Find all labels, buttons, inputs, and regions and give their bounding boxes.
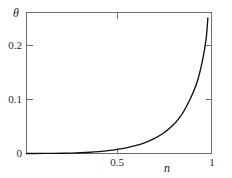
plot-area <box>0 0 232 178</box>
chart-figure: · · · ···· ·· ··· ···· · ···· ·· 0 0.1 0… <box>0 0 232 178</box>
x-tick-label-1: 1 <box>199 157 225 168</box>
y-tick-label-0: 0 <box>2 148 22 159</box>
y-axis-title: θ <box>13 7 19 19</box>
x-tick-label-0.5: 0.5 <box>103 157 131 168</box>
x-axis-title: n <box>164 162 170 174</box>
y-tick-label-0.1: 0.1 <box>0 94 22 105</box>
chart-background <box>0 0 232 178</box>
y-tick-label-0.2: 0.2 <box>0 40 22 51</box>
